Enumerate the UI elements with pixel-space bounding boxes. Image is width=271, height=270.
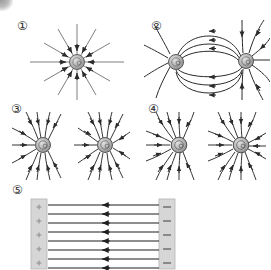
panel-1-diagram [30, 22, 126, 102]
panel-3-diagram [12, 112, 130, 180]
scan-smudge [0, 0, 13, 11]
panel-5-label: ⑤ [12, 184, 23, 196]
panel-4-diagram [146, 112, 266, 180]
panel-1: ① [0, 14, 136, 100]
panel-2-diagram [142, 20, 270, 100]
panel-4: ④ [136, 100, 271, 184]
capacitor-plate-negative [159, 199, 175, 269]
panel-1-label: ① [17, 20, 28, 32]
field-line-arrowheads [102, 205, 110, 268]
panel-2: ② [136, 14, 271, 100]
panel-3: ③ [0, 100, 136, 184]
panel-5-diagram [30, 198, 176, 270]
panel-5: ⑤ [0, 184, 271, 269]
